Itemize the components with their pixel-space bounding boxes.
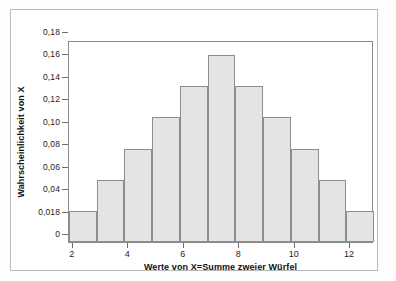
- y-axis-title: Wahrscheinlichkeit von X: [16, 86, 26, 197]
- bar-11: [319, 180, 347, 242]
- bar-9: [263, 117, 291, 242]
- x-tick-mark: [349, 243, 350, 248]
- y-tick-label: 0,018: [11, 207, 60, 217]
- figure-container: 00,0180,040,060,080,100,120,140,160,18 2…: [0, 0, 396, 281]
- figure-frame: 00,0180,040,060,080,100,120,140,160,18 2…: [10, 9, 378, 271]
- x-tick-label: 10: [289, 249, 299, 259]
- bar-5: [152, 117, 180, 242]
- x-tick-mark: [183, 243, 184, 248]
- bar-6: [180, 86, 208, 242]
- x-tick-label: 2: [69, 249, 74, 259]
- x-tick-label: 6: [180, 249, 185, 259]
- y-tick-label: 0,16: [11, 49, 60, 59]
- bar-3: [97, 180, 125, 242]
- x-tick-label: 8: [236, 249, 241, 259]
- bar-series: [69, 42, 372, 242]
- bar-12: [346, 211, 374, 242]
- y-tick-label: 0,14: [11, 72, 60, 82]
- bar-2: [69, 211, 97, 242]
- bar-7: [208, 55, 236, 242]
- x-tick-mark: [127, 243, 128, 248]
- y-tick-label: 0: [11, 229, 60, 239]
- bar-4: [124, 149, 152, 242]
- y-tick-mark: [62, 32, 68, 33]
- y-tick-label: 0,18: [11, 27, 60, 37]
- bar-10: [291, 149, 319, 242]
- plot-area: [68, 41, 373, 243]
- x-tick-label: 4: [125, 249, 130, 259]
- x-tick-mark: [294, 243, 295, 248]
- x-tick-mark: [72, 243, 73, 248]
- bar-8: [235, 86, 263, 242]
- x-axis-title: Werte von X=Summe zweier Würfel: [68, 262, 373, 272]
- x-tick-mark: [238, 243, 239, 248]
- x-tick-label: 12: [344, 249, 354, 259]
